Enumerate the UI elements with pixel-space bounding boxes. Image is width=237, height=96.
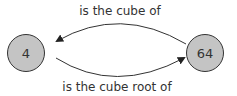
edge-cube-root-of <box>56 58 184 77</box>
node-64-label: 64 <box>197 46 214 61</box>
diagram-canvas: 4 64 is the cube of is the cube root of <box>0 0 237 96</box>
node-4-label: 4 <box>22 46 30 61</box>
edge-cube-of <box>57 24 186 44</box>
node-64: 64 <box>187 35 224 72</box>
edge-label-cube-root-of: is the cube root of <box>62 80 172 94</box>
node-4: 4 <box>8 35 45 72</box>
edge-label-cube-of: is the cube of <box>79 4 161 18</box>
